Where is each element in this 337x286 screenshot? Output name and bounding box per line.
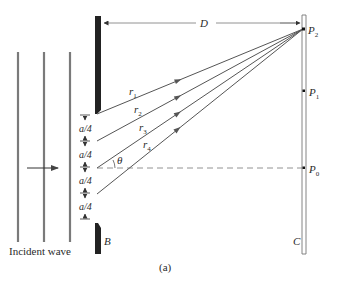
barrier-bottom xyxy=(95,223,101,254)
incident-wave-label: Incident wave xyxy=(9,245,71,257)
ray-label-r1: r1 xyxy=(129,85,137,100)
distance-label: D xyxy=(199,17,208,29)
rays xyxy=(97,29,303,194)
screen-c xyxy=(302,15,306,254)
barrier-label: B xyxy=(104,235,111,247)
point-p2-marker xyxy=(302,28,305,31)
ray-arrow-icon xyxy=(174,109,183,117)
ray-r1 xyxy=(97,29,303,114)
angle-label: θ xyxy=(117,154,123,166)
screen-label: C xyxy=(293,235,301,247)
spacing-label: a/4 xyxy=(79,201,92,212)
point-p1-marker xyxy=(303,90,306,93)
incident-wavefronts xyxy=(18,52,70,242)
angle-arc xyxy=(113,160,115,168)
ray-label-r4: r4 xyxy=(143,138,151,153)
ray-arrows xyxy=(173,77,182,134)
figure-caption: (a) xyxy=(159,261,172,274)
ray-arrow-icon xyxy=(174,77,182,84)
barrier-b xyxy=(95,16,101,254)
ray-r4 xyxy=(97,29,303,194)
spacing-label: a/4 xyxy=(79,149,92,160)
ray-arrow-icon xyxy=(174,93,183,101)
spacing-label: a/4 xyxy=(79,123,92,134)
point-label-p0: P0 xyxy=(308,163,320,178)
spacing-label: a/4 xyxy=(79,175,92,186)
point-label-p1: P1 xyxy=(308,86,320,101)
barrier-top xyxy=(95,16,101,114)
ray-r3 xyxy=(97,29,303,168)
ray-label-r2: r2 xyxy=(134,103,142,118)
ray-label-r3: r3 xyxy=(139,121,147,136)
point-p0-marker xyxy=(303,167,306,170)
ray-r2 xyxy=(97,29,303,141)
diffraction-diagram: Incident wave B a/4 a/4 a/4 a/4 D C xyxy=(0,0,337,286)
point-label-p2: P2 xyxy=(307,24,319,39)
